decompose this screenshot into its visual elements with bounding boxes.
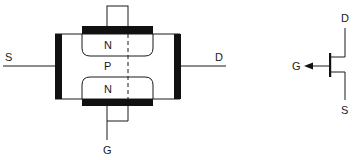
jfet-diagram: S D G N P N D G S (0, 0, 355, 160)
symbol-drain-label: D (341, 12, 349, 24)
top-gate-metal (82, 26, 153, 34)
symbol-source-label: S (341, 104, 348, 116)
bottom-gate-metal (82, 99, 153, 106)
gate-label: G (103, 144, 112, 156)
symbol-gate-label: G (292, 60, 301, 72)
bottom-n-region (82, 77, 153, 99)
top-n-label: N (104, 39, 112, 51)
jfet-symbol (310, 28, 345, 100)
top-n-region (82, 34, 153, 56)
p-channel-label: P (104, 60, 111, 72)
bottom-gate-contact (107, 106, 128, 121)
bottom-n-label: N (104, 83, 112, 95)
metal-contacts (55, 26, 181, 106)
drain-metal-contact (174, 34, 181, 99)
gate-arrow-icon (304, 63, 313, 70)
top-gate-contact (107, 6, 128, 27)
source-metal-contact (55, 34, 62, 99)
source-label: S (5, 51, 12, 63)
symbol-channel-bar (329, 53, 331, 77)
drain-label: D (215, 51, 223, 63)
